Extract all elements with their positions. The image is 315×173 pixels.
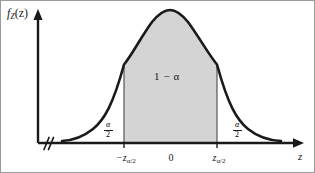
left-tail-denominator: 2 (100, 131, 116, 139)
y-axis-label-argument: (z) (15, 6, 28, 20)
tick-pos-subscript: α/2 (216, 157, 225, 165)
y-axis-label: fZ(z) (7, 7, 28, 21)
x-axis-label: z (298, 151, 302, 162)
x-axis-arrowhead (293, 138, 304, 148)
right-tail-area-label: α 2 (229, 121, 245, 139)
left-tail-numerator: α (100, 121, 116, 129)
tick-label-negative-critical-value: −zα/2 (105, 153, 147, 165)
right-tail-numerator: α (229, 121, 245, 129)
normal-curve-plot (1, 1, 314, 172)
tick-neg-base: −z (116, 152, 127, 163)
figure-container: fZ(z) z 1 − α α 2 α 2 −zα/2 0 zα/2 (0, 0, 315, 173)
tick-label-positive-critical-value: zα/2 (201, 153, 237, 165)
tick-zero-base: 0 (169, 152, 174, 163)
tick-label-zero: 0 (161, 153, 181, 163)
left-tail-area-label: α 2 (100, 121, 116, 139)
y-axis-arrowhead (33, 9, 42, 20)
confidence-level-label: 1 − α (154, 71, 180, 82)
right-tail-denominator: 2 (229, 131, 245, 139)
tick-neg-subscript: α/2 (127, 157, 136, 165)
